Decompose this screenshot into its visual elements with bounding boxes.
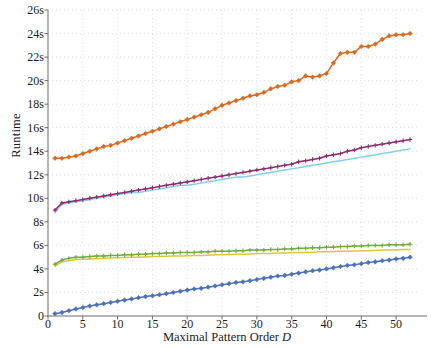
grid-lines [48,10,417,316]
cyan-series [55,149,410,213]
y-axis-title: Runtime [9,96,24,176]
x-tick-label: 45 [355,318,367,330]
x-axis-title-symbol: D [282,330,291,344]
x-tick-label: 5 [80,318,86,330]
purple-series [53,137,412,212]
x-tick-label: 35 [286,318,298,330]
plot-area [0,0,431,347]
orange-series [53,31,413,160]
x-axis-title: Maximal Pattern Order D [48,330,406,345]
x-tick-label: 50 [390,318,402,330]
blue-series [53,255,413,316]
data-series [53,31,413,316]
yellow-series [55,250,410,266]
runtime-line-chart: 02s4s6s8s10s12s14s16s18s20s22s24s26s Run… [0,0,431,347]
x-tick-label: 0 [45,318,51,330]
axis-lines [45,10,428,320]
x-tick-label: 15 [146,318,158,330]
x-tick-label: 40 [320,318,332,330]
x-tick-label: 10 [112,318,124,330]
x-tick-label: 25 [216,318,228,330]
x-axis-title-text: Maximal Pattern Order [163,330,282,344]
x-tick-label: 30 [251,318,263,330]
x-tick-label: 20 [181,318,193,330]
